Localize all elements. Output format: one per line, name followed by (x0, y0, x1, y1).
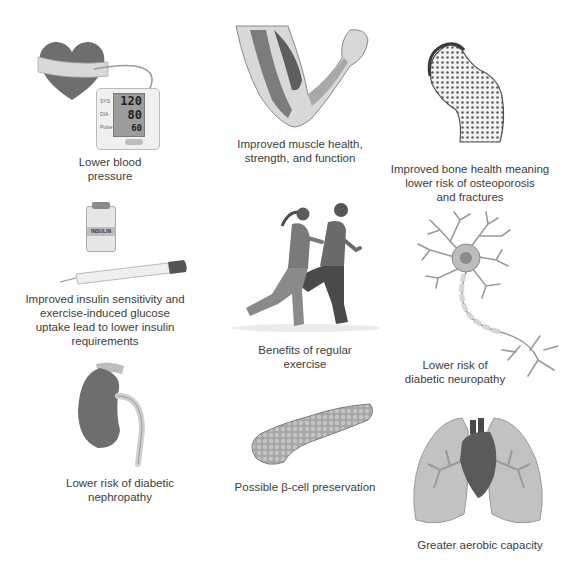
sys-value: 120 (114, 94, 144, 108)
panel-neuropathy: Lower risk of diabetic neuropathy (390, 200, 571, 390)
caption-center: Benefits of regular exercise (230, 343, 380, 371)
panel-beta-cell: Possible β-cell preservation (220, 390, 390, 500)
panel-aerobic: Greater aerobic capacity (390, 390, 571, 565)
caption-bone: Improved bone health meaning lower risk … (380, 162, 560, 204)
center-title-line1: Benefits of regular (230, 343, 380, 357)
panel-insulin: INSULIN Improved insulin sensitivity and… (0, 200, 215, 350)
panel-bone: Improved bone health meaning lower risk … (370, 0, 571, 210)
pulse-value: 60 (114, 122, 144, 134)
caption-beta-cell: Possible β-cell preservation (220, 480, 390, 494)
monitor-button (125, 139, 143, 145)
caption-muscle: Improved muscle health, strength, and fu… (230, 137, 370, 165)
caption-insulin: Improved insulin sensitivity and exercis… (5, 292, 205, 348)
dia-value: 80 (114, 108, 144, 122)
caption-neuropathy: Lower risk of diabetic neuropathy (400, 358, 510, 386)
pulse-label: Pulse (100, 121, 113, 134)
caption-blood-pressure: Lower blood pressure (55, 155, 165, 183)
sys-label: SYS (100, 95, 113, 108)
bp-monitor: SYS DIA Pulse 120 80 60 (96, 88, 160, 150)
panel-muscle: Improved muscle health, strength, and fu… (200, 0, 380, 190)
caption-aerobic: Greater aerobic capacity (395, 538, 565, 552)
bp-display: 120 80 60 (113, 93, 145, 137)
dia-label: DIA (100, 108, 113, 121)
caption-nephropathy: Lower risk of diabetic nephropathy (55, 476, 185, 504)
panel-center-exercise: Benefits of regular exercise (220, 200, 390, 380)
panel-nephropathy: Lower risk of diabetic nephropathy (0, 360, 220, 510)
center-title-line2: exercise (230, 357, 380, 371)
panel-blood-pressure: SYS DIA Pulse 120 80 60 Lower blood pres… (0, 0, 200, 190)
